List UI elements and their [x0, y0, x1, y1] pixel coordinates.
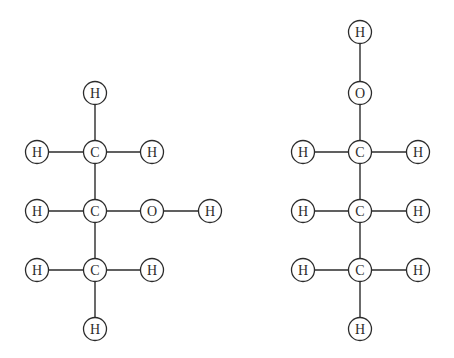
atom-h: H [84, 82, 107, 105]
atom-label: H [355, 25, 365, 40]
atom-label: H [32, 145, 42, 160]
atom-label: H [147, 145, 157, 160]
atom-label: H [298, 204, 308, 219]
atom-label: H [205, 204, 215, 219]
atom-label: C [90, 204, 99, 219]
atom-h: H [349, 318, 372, 341]
atom-c: C [349, 259, 372, 282]
atom-h: H [407, 141, 430, 164]
atom-label: C [90, 145, 99, 160]
atom-h: H [26, 141, 49, 164]
atom-h: H [26, 200, 49, 223]
atom-h: H [349, 21, 372, 44]
molecular-structure-figure: HCHHCHOHCHHHHOCHHCHHCHHH [0, 0, 454, 358]
atom-h: H [407, 200, 430, 223]
atom-label: C [355, 263, 364, 278]
atom-label: H [298, 263, 308, 278]
atom-c: C [84, 259, 107, 282]
atom-h: H [292, 141, 315, 164]
atom-label: O [355, 86, 365, 101]
atom-o: O [141, 200, 164, 223]
atom-label: H [90, 322, 100, 337]
atom-label: H [413, 145, 423, 160]
atom-label: H [413, 263, 423, 278]
atom-c: C [84, 200, 107, 223]
atom-label: H [413, 204, 423, 219]
molecule-left-bonds [49, 105, 199, 318]
atom-c: C [349, 200, 372, 223]
atom-label: H [147, 263, 157, 278]
atom-label: H [32, 263, 42, 278]
atom-h: H [407, 259, 430, 282]
atom-c: C [84, 141, 107, 164]
atom-h: H [292, 200, 315, 223]
atoms-layer: HCHHCHOHCHHHHOCHHCHHCHHH [26, 21, 430, 341]
atom-label: H [298, 145, 308, 160]
atom-h: H [199, 200, 222, 223]
atom-label: C [90, 263, 99, 278]
atom-c: C [349, 141, 372, 164]
atom-h: H [141, 259, 164, 282]
diagram-canvas: HCHHCHOHCHHHHOCHHCHHCHHH [0, 0, 454, 358]
atom-label: H [32, 204, 42, 219]
atom-label: H [355, 322, 365, 337]
atom-label: C [355, 145, 364, 160]
atom-h: H [292, 259, 315, 282]
atom-o: O [349, 82, 372, 105]
atom-h: H [84, 318, 107, 341]
atom-h: H [141, 141, 164, 164]
atom-h: H [26, 259, 49, 282]
atom-label: C [355, 204, 364, 219]
atom-label: H [90, 86, 100, 101]
atom-label: O [147, 204, 157, 219]
